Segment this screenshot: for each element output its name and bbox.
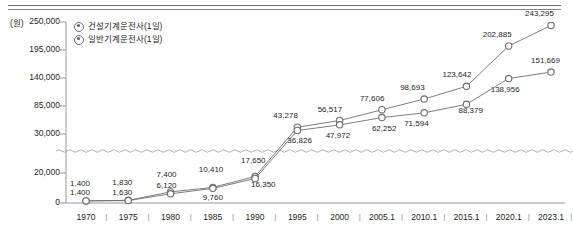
data-point-marker <box>336 122 342 128</box>
data-point-marker <box>379 114 385 120</box>
data-point-marker <box>379 107 385 113</box>
data-point-marker <box>294 127 300 133</box>
legend-item-0[interactable]: 건설기계운전사(1일) <box>74 21 162 32</box>
circle-dot-icon <box>74 35 84 45</box>
chart-root: (원) 250,000195,000140,00085,00030,00020,… <box>0 0 573 234</box>
data-point-marker <box>548 69 554 75</box>
legend-item-1[interactable]: 일반기계운전사(1일) <box>74 34 162 45</box>
data-point-marker <box>421 110 427 116</box>
data-point-marker <box>548 22 554 28</box>
axis-break-wave <box>56 150 573 153</box>
data-point-marker <box>167 191 173 197</box>
data-point-marker <box>252 175 258 181</box>
series-line-1 <box>86 72 551 201</box>
data-point-marker <box>463 101 469 107</box>
data-point-marker <box>125 197 131 203</box>
data-point-marker <box>210 185 216 191</box>
data-point-marker <box>506 75 512 81</box>
data-point-marker <box>463 83 469 89</box>
legend: 건설기계운전사(1일) 일반기계운전사(1일) <box>74 21 162 47</box>
data-point-marker <box>506 43 512 49</box>
series-line-0 <box>86 25 551 201</box>
data-point-marker <box>421 96 427 102</box>
circle-dot-icon <box>74 22 84 32</box>
legend-item-label: 건설기계운전사(1일) <box>88 21 162 32</box>
data-point-marker <box>83 198 89 204</box>
legend-item-label: 일반기계운전사(1일) <box>88 34 162 45</box>
